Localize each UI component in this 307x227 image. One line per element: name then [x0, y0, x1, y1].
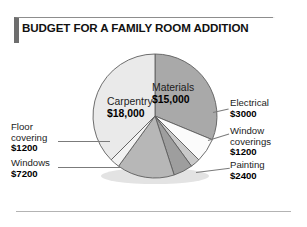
- slice-label-windows-value: $7200: [11, 169, 50, 180]
- leader-line-windows: [58, 167, 120, 168]
- slice-label-painting-value: $2400: [230, 171, 265, 182]
- slice-label-windows: Windows $7200: [11, 158, 50, 179]
- slice-label-electrical: Electrical $3000: [230, 98, 269, 119]
- slice-label-materials-category: Materials: [152, 82, 194, 94]
- slice-label-floor-covering-value: $1200: [11, 143, 47, 154]
- slice-label-carpentry-value: $18,000: [107, 108, 153, 120]
- slice-label-carpentry: Carpentry $18,000: [107, 96, 153, 119]
- pie-chart-figure: BUDGET FOR A FAMILY ROOM ADDITION Carpen…: [0, 0, 307, 227]
- slice-label-materials: Materials $15,000: [152, 82, 194, 105]
- leader-line-floor-covering: [58, 141, 110, 142]
- slice-label-carpentry-category: Carpentry: [107, 96, 153, 108]
- pie-chart-svg: [85, 50, 225, 190]
- slice-label-floor-covering: Floor covering $1200: [11, 122, 47, 154]
- slice-label-window-coverings-value: $1200: [230, 147, 271, 158]
- slice-label-electrical-value: $3000: [230, 109, 269, 120]
- slice-label-painting: Painting $2400: [230, 160, 265, 181]
- slice-label-materials-value: $15,000: [152, 94, 194, 106]
- page-title: BUDGET FOR A FAMILY ROOM ADDITION: [22, 21, 249, 34]
- pie-chart: [85, 50, 225, 190]
- footer-divider: [16, 211, 291, 212]
- slice-label-window-coverings: Window coverings $1200: [230, 126, 271, 158]
